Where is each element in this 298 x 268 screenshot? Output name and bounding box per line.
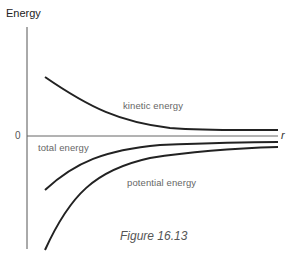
energy-diagram: Energy 0 r kinetic energy total energy p… [0, 0, 298, 268]
potential-energy-label: potential energy [127, 178, 196, 188]
total-energy-label: total energy [38, 143, 89, 153]
zero-tick-label: 0 [15, 131, 21, 141]
figure-caption: Figure 16.13 [120, 230, 187, 242]
x-axis-label: r [281, 130, 285, 141]
diagram-canvas [0, 0, 298, 268]
kinetic-energy-label: kinetic energy [123, 101, 183, 111]
y-axis-label: Energy [6, 8, 41, 19]
